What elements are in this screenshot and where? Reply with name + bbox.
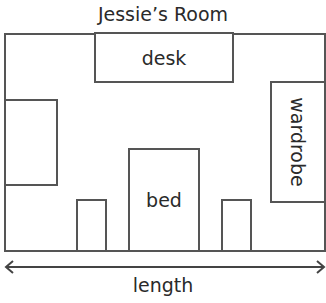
- desk-label: desk: [142, 47, 187, 69]
- diagram-title: Jessie’s Room: [0, 3, 326, 25]
- wardrobe: wardrobe: [270, 81, 326, 203]
- length-label: length: [0, 274, 326, 296]
- side-furniture: [4, 99, 58, 186]
- nightstand-left: [76, 199, 107, 252]
- wardrobe-label: wardrobe: [287, 97, 309, 187]
- double-arrow-icon: [4, 260, 326, 274]
- bed-label: bed: [146, 189, 182, 211]
- nightstand-right: [221, 199, 252, 252]
- desk: desk: [94, 32, 234, 83]
- bed: bed: [128, 148, 200, 252]
